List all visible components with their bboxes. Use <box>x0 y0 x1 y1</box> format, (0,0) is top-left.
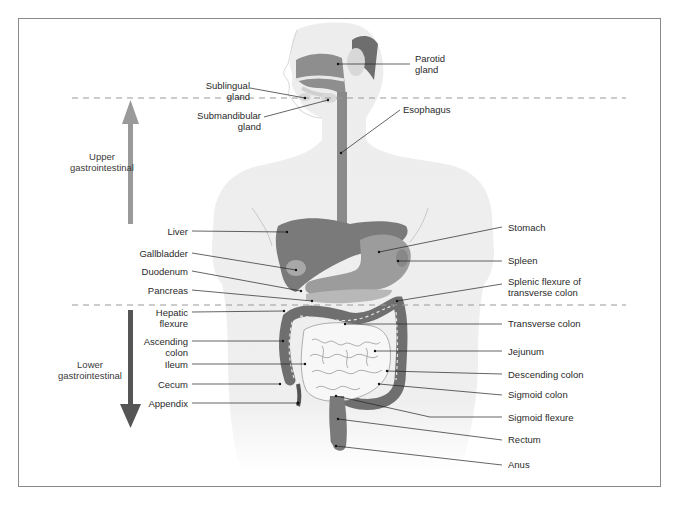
label-sigmoid-flexure: Sigmoid flexure <box>508 412 573 423</box>
label-esophagus: Esophagus <box>403 104 451 115</box>
label-hepatic-flexure: Hepatic flexure <box>156 307 188 329</box>
digestive-system-illustration <box>0 0 676 508</box>
gallbladder-shape <box>286 260 306 276</box>
label-ileum: Ileum <box>165 359 188 370</box>
label-submandibular-gland: Submandibular gland <box>197 110 261 132</box>
label-anus: Anus <box>508 459 530 470</box>
label-ascending-colon: Ascending colon <box>144 336 188 358</box>
label-jejunum: Jejunum <box>508 346 544 357</box>
label-sublingual-gland: Sublingual gland <box>206 80 250 102</box>
label-gallbladder: Gallbladder <box>139 248 188 259</box>
label-liver: Liver <box>167 226 188 237</box>
lower-gastrointestinal-label: Lower gastrointestinal <box>54 359 126 381</box>
label-transverse-colon: Transverse colon <box>508 318 581 329</box>
upper-gastrointestinal-label: Upper gastrointestinal <box>62 151 142 173</box>
spleen-shape <box>396 249 408 267</box>
label-appendix: Appendix <box>148 398 188 409</box>
label-duodenum: Duodenum <box>142 266 188 277</box>
label-cecum: Cecum <box>158 379 188 390</box>
label-parotid-gland: Parotid gland <box>415 53 445 75</box>
esophagus-shape <box>337 92 347 232</box>
label-splenic-flexure: Splenic flexure of transverse colon <box>508 276 581 298</box>
label-sigmoid-colon: Sigmoid colon <box>508 389 568 400</box>
label-stomach: Stomach <box>508 222 546 233</box>
label-descending-colon: Descending colon <box>508 369 584 380</box>
label-pancreas: Pancreas <box>148 285 188 296</box>
label-spleen: Spleen <box>508 255 538 266</box>
label-rectum: Rectum <box>508 434 541 445</box>
